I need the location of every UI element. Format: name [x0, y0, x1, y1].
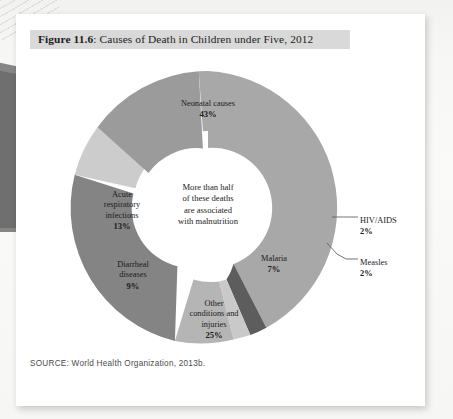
- slice-label-diarrheal-diseases-pct: 9%: [95, 281, 171, 291]
- slice-label-malaria-pct: 7%: [243, 264, 305, 274]
- slice-label-other-conditions-and-injuries-pct: 25%: [168, 330, 260, 340]
- donut-chart: More than half of these deaths are assoc…: [16, 14, 425, 406]
- slice-label-acute-respiratory-infections-text: Acute respiratory infections: [104, 190, 140, 219]
- slice-label-malaria-text: Malaria: [261, 254, 287, 263]
- callout-label-hiv-aids-pct: 2%: [360, 227, 420, 237]
- screenshot-scene: Figure 11.6: Causes of Death in Children…: [0, 0, 453, 419]
- slice-label-diarrheal-diseases-text: Diarrheal diseases: [117, 260, 149, 279]
- callout-label-measles-pct: 2%: [360, 269, 420, 279]
- callout-label-measles: Measles 2%: [360, 248, 420, 290]
- figure-card: Figure 11.6: Causes of Death in Children…: [16, 14, 425, 406]
- slice-label-other-conditions-and-injuries: Other conditions and injuries 25%: [168, 289, 260, 350]
- slice-label-neonatal-causes-pct: 43%: [153, 109, 263, 119]
- callout-label-hiv-aids-text: HIV/AIDS: [360, 216, 397, 225]
- slice-label-neonatal-causes: Neonatal causes 43%: [153, 89, 263, 130]
- callout-label-hiv-aids: HIV/AIDS 2%: [360, 206, 420, 248]
- center-annotation: More than half of these deaths are assoc…: [148, 182, 268, 228]
- slice-label-malaria: Malaria 7%: [243, 244, 305, 285]
- slice-label-diarrheal-diseases: Diarrheal diseases 9%: [95, 250, 171, 301]
- slice-label-other-conditions-and-injuries-text: Other conditions and injuries: [189, 299, 238, 328]
- callout-label-measles-text: Measles: [360, 258, 387, 267]
- slice-label-acute-respiratory-infections-pct: 13%: [84, 221, 160, 231]
- slice-label-acute-respiratory-infections: Acute respiratory infections 13%: [84, 180, 160, 241]
- slice-label-neonatal-causes-text: Neonatal causes: [181, 99, 235, 108]
- source-note: SOURCE: World Health Organization, 2013b…: [30, 359, 205, 368]
